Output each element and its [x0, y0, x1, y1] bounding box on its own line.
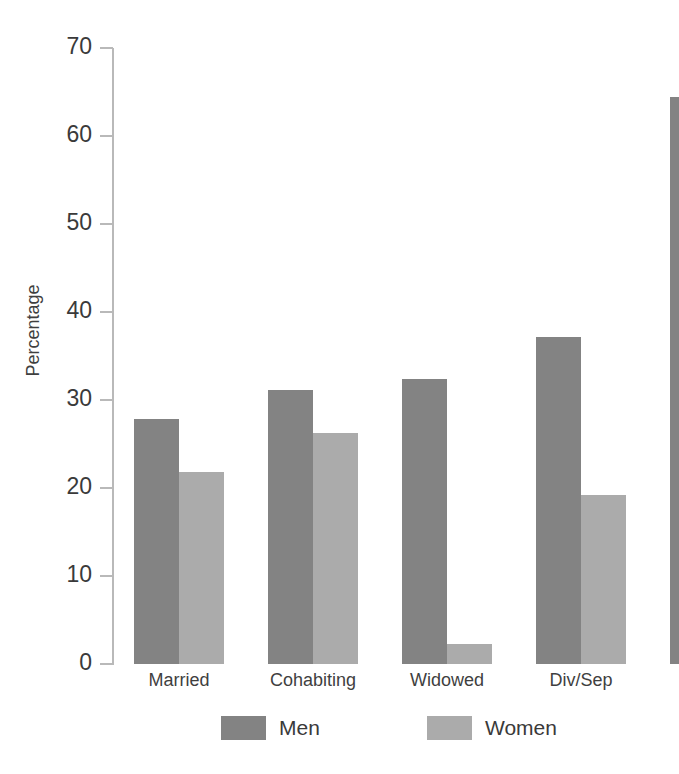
- bar-div-sep-men: [536, 337, 581, 664]
- x-axis-category-label: Single: [670, 670, 679, 691]
- x-axis-category-label: Married: [134, 670, 224, 691]
- legend-label-men: Men: [279, 716, 320, 740]
- bar-chart: 706050403020100 Percentage MarriedCohabi…: [0, 0, 679, 774]
- bar-div-sep-women: [581, 495, 626, 664]
- legend-item-men: Men: [221, 716, 320, 740]
- legend-swatch-women-icon: [427, 716, 472, 740]
- x-axis-category-label: Widowed: [402, 670, 492, 691]
- legend-item-women: Women: [427, 716, 557, 740]
- chart-legend: Men Women: [0, 716, 679, 756]
- x-axis-category-label: Cohabiting: [268, 670, 358, 691]
- legend-label-women: Women: [485, 716, 557, 740]
- bar-cohabiting-men: [268, 390, 313, 664]
- plot-area: MarriedCohabitingWidowedDiv/SepSingleAll: [0, 0, 679, 774]
- bar-married-women: [179, 472, 224, 664]
- x-axis-category-label: Div/Sep: [536, 670, 626, 691]
- bar-married-men: [134, 419, 179, 664]
- bar-widowed-women: [447, 644, 492, 664]
- bar-cohabiting-women: [313, 433, 358, 664]
- bar-widowed-men: [402, 379, 447, 664]
- bar-single-men: [670, 97, 679, 664]
- legend-swatch-men-icon: [221, 716, 266, 740]
